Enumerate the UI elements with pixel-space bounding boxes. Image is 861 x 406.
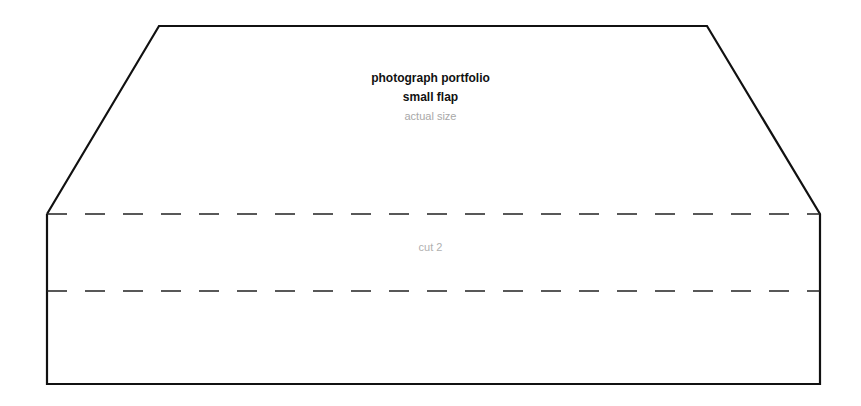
- template-subtitle: small flap: [0, 89, 861, 106]
- template-title: photograph portfolio: [0, 70, 861, 87]
- scale-note: actual size: [0, 108, 861, 124]
- flap-template-drawing: [0, 0, 861, 406]
- cut-instruction: cut 2: [0, 239, 861, 255]
